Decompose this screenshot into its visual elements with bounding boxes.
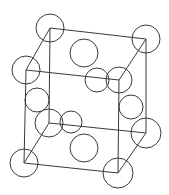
atom-face-center-right-12 — [119, 95, 143, 119]
atom-face-center-front-9 — [85, 68, 109, 92]
cell-atoms — [10, 14, 161, 188]
unit-cell-diagram — [0, 0, 169, 195]
atom-face-center-top-8 — [70, 39, 98, 67]
cell-edges — [24, 28, 146, 173]
cell-edge-front-top-right-to-front-bottom-right — [118, 80, 119, 173]
cell-edge-back-top-right-to-front-top-right — [119, 39, 146, 80]
atom-face-center-bottom-13 — [70, 134, 98, 162]
atom-face-center-left-10 — [25, 88, 49, 112]
